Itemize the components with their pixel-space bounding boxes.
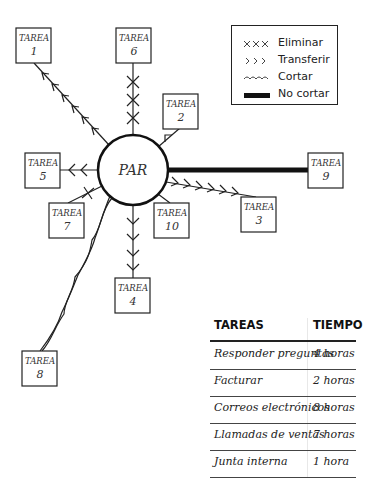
task-name: Llamadas de ventas: [214, 428, 325, 441]
tarea-3-number: 3: [256, 214, 263, 227]
tarea-6-label: TAREA: [119, 33, 149, 43]
table-row: Responder preguntas 4 horas: [210, 342, 356, 370]
tarea-10-label: TAREA: [157, 208, 187, 218]
task-time: 2 horas: [313, 374, 355, 387]
table-row: Llamadas de ventas 7 horas: [210, 423, 356, 451]
legend-item-cortar: Cortar: [232, 70, 337, 86]
tarea-1-number: 1: [31, 45, 38, 58]
tarea-5-label: TAREA: [28, 158, 58, 168]
tarea-1-label: TAREA: [19, 33, 49, 43]
wave-icon: [242, 71, 272, 85]
task-time: 1 hora: [313, 455, 349, 468]
tarea-6-number: 6: [131, 45, 138, 58]
task-time: 4 horas: [313, 347, 355, 360]
task-time: 8 horas: [313, 401, 355, 414]
task-name: Facturar: [214, 374, 262, 387]
connector-tarea-7: [68, 186, 102, 203]
header-tareas: TAREAS: [214, 318, 264, 332]
thick-line-icon: [242, 88, 272, 102]
tarea-3-label: TAREA: [244, 202, 274, 212]
connector-tarea-3: [166, 177, 256, 197]
legend: Eliminar Transferir Cortar No cortar: [231, 25, 338, 105]
legend-item-no-cortar: No cortar: [232, 87, 337, 103]
xxx-icon: [242, 37, 272, 51]
table-row: Correos electrónicos 8 horas: [210, 396, 356, 424]
connector-tarea-4: [127, 205, 139, 278]
task-time: 7 horas: [313, 428, 355, 441]
tarea-7-number: 7: [64, 220, 71, 233]
legend-label: Transferir: [278, 53, 330, 67]
table-row: Facturar 2 horas: [210, 369, 356, 397]
legend-label: Cortar: [278, 70, 313, 84]
legend-label: No cortar: [278, 87, 329, 101]
tarea-4-number: 4: [129, 295, 137, 308]
tarea-9-number: 9: [323, 170, 330, 183]
task-name: Junta interna: [214, 455, 288, 468]
par-label: PAR: [118, 162, 148, 178]
header-tiempo: TIEMPO: [313, 318, 363, 332]
connector-tarea-10: [158, 194, 170, 203]
tarea-4-label: TAREA: [118, 283, 148, 293]
legend-item-transferir: Transferir: [232, 53, 337, 69]
connector-tarea-6: [127, 63, 139, 135]
tarea-7-label: TAREA: [52, 208, 82, 218]
legend-item-eliminar: Eliminar: [232, 36, 337, 52]
tarea-10-number: 10: [165, 220, 179, 233]
legend-label: Eliminar: [278, 36, 323, 50]
connector-tarea-5: [60, 164, 98, 176]
tarea-2-label: TAREA: [166, 99, 196, 109]
connector-tarea-2: [158, 128, 180, 147]
chevrons-icon: [242, 54, 272, 68]
connector-tarea-1: [34, 63, 109, 145]
tarea-9-label: TAREA: [311, 158, 341, 168]
tarea-8-label: TAREA: [25, 356, 55, 366]
table-row: Junta interna 1 hora: [210, 450, 356, 478]
tarea-8-number: 8: [37, 368, 44, 381]
tarea-5-number: 5: [40, 170, 47, 183]
tarea-2-number: 2: [177, 111, 185, 124]
